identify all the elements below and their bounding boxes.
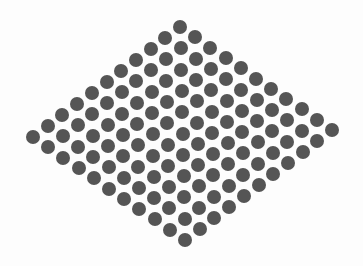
lattice-dot <box>296 145 310 159</box>
lattice-dot <box>100 75 114 89</box>
lattice-dot <box>146 149 160 163</box>
lattice-dot <box>280 113 294 127</box>
lattice-dot <box>161 159 175 173</box>
lattice-dot <box>192 179 206 193</box>
lattice-dot <box>101 139 115 153</box>
lattice-dot <box>236 168 250 182</box>
lattice-dot <box>144 63 158 77</box>
lattice-dot <box>235 104 249 118</box>
lattice-dot <box>100 96 114 110</box>
lattice-dot <box>325 123 339 137</box>
lattice-dot <box>222 200 236 214</box>
lattice-dot <box>145 106 159 120</box>
lattice-dot <box>266 146 280 160</box>
lattice-dot <box>26 130 40 144</box>
lattice-dot <box>310 134 324 148</box>
lattice-dot <box>148 212 162 226</box>
lattice-dot <box>251 135 265 149</box>
lattice-dot <box>205 126 219 140</box>
lattice-dot <box>190 116 204 130</box>
lattice-dot <box>295 124 309 138</box>
lattice-dot <box>114 64 128 78</box>
lattice-dot <box>207 211 221 225</box>
lattice-dot <box>102 182 116 196</box>
lattice-dot <box>56 129 70 143</box>
lattice-dot <box>219 72 233 86</box>
lattice-dot <box>176 127 190 141</box>
lattice-dot <box>280 135 294 149</box>
lattice-dot <box>219 51 233 65</box>
lattice-dot <box>234 83 248 97</box>
lattice-dot <box>147 191 161 205</box>
lattice-dot <box>116 149 130 163</box>
lattice-dot <box>189 73 203 87</box>
lattice-dot <box>129 53 143 67</box>
lattice-dot <box>71 140 85 154</box>
lattice-dot <box>146 127 160 141</box>
lattice-dot <box>174 41 188 55</box>
lattice-dot <box>220 94 234 108</box>
lattice-dot <box>189 52 203 66</box>
lattice-dot <box>130 117 144 131</box>
lattice-dot <box>190 94 204 108</box>
lattice-dot <box>145 85 159 99</box>
lattice-dot <box>265 103 279 117</box>
lattice-dot <box>161 138 175 152</box>
lattice-dot <box>147 170 161 184</box>
lattice-dot <box>56 151 70 165</box>
lattice-dot <box>85 107 99 121</box>
lattice-dot <box>221 136 235 150</box>
lattice-dot <box>177 169 191 183</box>
lattice-dot <box>101 118 115 132</box>
lattice-dot <box>249 72 263 86</box>
lattice-dot <box>160 116 174 130</box>
lattice-dot <box>115 85 129 99</box>
lattice-dot <box>205 105 219 119</box>
lattice-dot <box>131 138 145 152</box>
lattice-dot <box>130 96 144 110</box>
lattice-dot <box>70 97 84 111</box>
lattice-dot <box>237 189 251 203</box>
lattice-dot <box>236 146 250 160</box>
lattice-dot <box>72 161 86 175</box>
lattice-dot <box>144 42 158 56</box>
lattice-dot <box>221 157 235 171</box>
lattice-dot <box>178 212 192 226</box>
lattice-dot <box>250 93 264 107</box>
lattice-dot <box>163 223 177 237</box>
lattice-dot <box>175 105 189 119</box>
lattice-dot <box>132 181 146 195</box>
lattice-dot <box>250 114 264 128</box>
lattice-dot <box>132 202 146 216</box>
lattice-dot <box>159 74 173 88</box>
lattice-dot <box>85 86 99 100</box>
lattice-dot <box>86 150 100 164</box>
lattice-dot <box>102 160 116 174</box>
lattice-dot <box>86 129 100 143</box>
lattice-dot <box>117 192 131 206</box>
lattice-dot <box>206 147 220 161</box>
lattice-dot <box>252 178 266 192</box>
lattice-dot <box>117 171 131 185</box>
lattice-dot <box>116 128 130 142</box>
lattice-dot <box>204 62 218 76</box>
lattice-dot <box>159 52 173 66</box>
lattice-dot <box>207 190 221 204</box>
lattice-dot <box>191 158 205 172</box>
lattice-dot <box>176 148 190 162</box>
lattice-dot <box>206 168 220 182</box>
lattice-dot <box>175 84 189 98</box>
lattice-dot <box>264 82 278 96</box>
lattice-dot <box>222 179 236 193</box>
lattice-dot <box>192 201 206 215</box>
lattice-dot <box>203 41 217 55</box>
lattice-dot <box>173 20 187 34</box>
lattice-dot <box>220 115 234 129</box>
lattice-dot <box>41 140 55 154</box>
lattice-dot <box>235 125 249 139</box>
lattice-dot <box>188 30 202 44</box>
lattice-dot <box>178 233 192 247</box>
lattice-dot <box>191 137 205 151</box>
dot-lattice-diagram <box>0 0 363 266</box>
lattice-dot <box>174 63 188 77</box>
